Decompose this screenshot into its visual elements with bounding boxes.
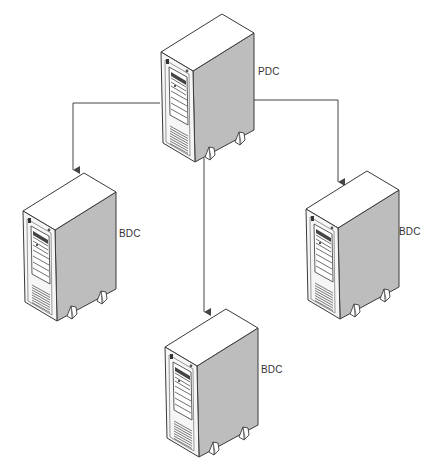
bdc-left-server-icon [23,173,116,321]
bdc-bottom-label: BDC [261,364,283,375]
bdc-bottom-server-icon [165,309,258,457]
connector-pdc-to-bdc-right [254,100,338,182]
bdc-left-label: BDC [119,228,141,239]
diagram-canvas [0,0,435,476]
connector-pdc-to-bdc-left [73,103,160,170]
pdc-server-icon [161,14,254,162]
pdc-label: PDC [258,66,280,77]
bdc-right-server-icon [306,171,399,319]
bdc-right-label: BDC [399,226,421,237]
